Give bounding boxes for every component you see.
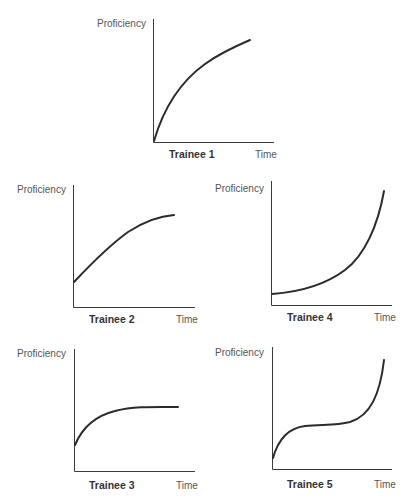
chart-title: Trainee 2 <box>89 313 135 325</box>
curve-steady <box>74 215 174 282</box>
curve-s-shaped <box>273 360 384 458</box>
x-axis-label: Time <box>255 149 277 160</box>
chart-title: Trainee 5 <box>287 478 333 490</box>
chart-trainee-4: Proficiency Trainee 4 Time <box>215 181 396 323</box>
y-axis-label: Proficiency <box>215 347 264 358</box>
y-axis-label: Proficiency <box>17 348 66 359</box>
chart-trainee-1: Proficiency Trainee 1 Time <box>97 18 277 160</box>
chart-title: Trainee 1 <box>169 148 215 160</box>
y-axis-label: Proficiency <box>215 183 264 194</box>
y-axis-label: Proficiency <box>97 18 146 29</box>
x-axis-label: Time <box>374 312 396 323</box>
chart-trainee-2: Proficiency Trainee 2 Time <box>17 184 198 325</box>
chart-title: Trainee 4 <box>287 311 333 323</box>
y-axis-label: Proficiency <box>17 184 66 195</box>
x-axis-label: Time <box>374 479 396 490</box>
chart-title: Trainee 3 <box>89 479 135 491</box>
x-axis-label: Time <box>176 314 198 325</box>
chart-trainee-3: Proficiency Trainee 3 Time <box>17 348 198 491</box>
curve-plateau <box>75 407 178 445</box>
x-axis-label: Time <box>176 480 198 491</box>
learning-curves-diagram: Proficiency Trainee 1 Time Proficiency T… <box>0 0 411 502</box>
chart-trainee-5: Proficiency Trainee 5 Time <box>215 347 396 490</box>
curve-concave <box>154 40 250 141</box>
curve-exponential <box>272 191 384 294</box>
